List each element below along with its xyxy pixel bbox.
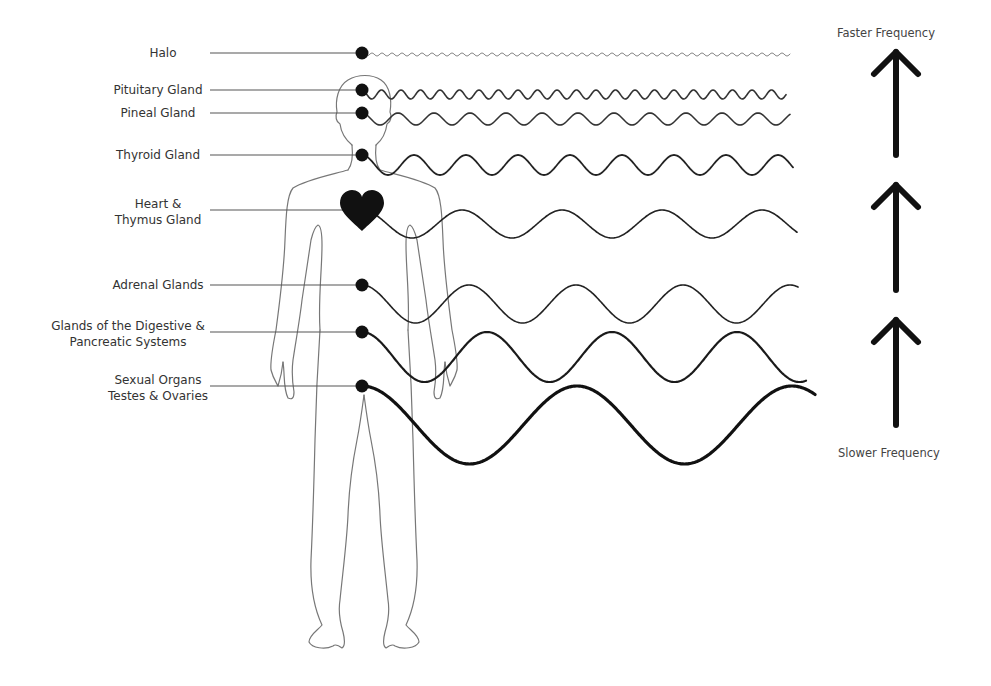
gland-dot-icon (356, 47, 369, 60)
frequency-wave (362, 210, 797, 238)
gland-dot-icon (356, 107, 369, 120)
gland-dot-icon (356, 84, 369, 97)
gland-label-line: Thyroid Gland (58, 147, 258, 163)
gland-label-line: Pancreatic Systems (28, 334, 228, 350)
gland-label-line: Sexual Organs (58, 372, 258, 388)
gland-label-line: Halo (63, 45, 263, 61)
gland-label: Sexual OrgansTestes & Ovaries (58, 372, 258, 404)
frequency-wave (362, 53, 790, 56)
human-body-outline (271, 76, 457, 649)
frequency-arrows (874, 52, 918, 425)
slower-frequency-label: Slower Frequency (838, 446, 940, 460)
gland-dot-icon (356, 149, 369, 162)
frequency-diagram: HaloPituitary GlandPineal GlandThyroid G… (0, 0, 991, 686)
frequency-wave (362, 155, 793, 175)
frequency-wave (362, 113, 790, 125)
gland-label-line: Heart & (58, 196, 258, 212)
frequency-waves (362, 53, 815, 464)
gland-label-line: Testes & Ovaries (58, 388, 258, 404)
gland-label-line: Pituitary Gland (58, 82, 258, 98)
up-arrow-icon (874, 320, 918, 425)
gland-label: Glands of the Digestive &Pancreatic Syst… (28, 318, 228, 350)
gland-label: Pituitary Gland (58, 82, 258, 98)
gland-label-line: Thymus Gland (58, 212, 258, 228)
frequency-wave (362, 386, 815, 464)
frequency-wave (362, 332, 806, 382)
gland-label: Adrenal Glands (58, 277, 258, 293)
gland-label: Thyroid Gland (58, 147, 258, 163)
up-arrow-icon (874, 52, 918, 155)
frequency-wave (362, 90, 786, 99)
gland-label: Halo (63, 45, 263, 61)
gland-label: Pineal Gland (58, 105, 258, 121)
gland-label-line: Glands of the Digestive & (28, 318, 228, 334)
faster-frequency-label: Faster Frequency (837, 26, 935, 40)
gland-dot-icon (356, 380, 369, 393)
heart-icon (340, 190, 384, 231)
gland-dot-icon (356, 279, 369, 292)
gland-label: Heart &Thymus Gland (58, 196, 258, 228)
gland-label-line: Adrenal Glands (58, 277, 258, 293)
frequency-wave (362, 285, 798, 323)
gland-label-line: Pineal Gland (58, 105, 258, 121)
gland-dot-icon (356, 326, 369, 339)
up-arrow-icon (874, 185, 918, 290)
